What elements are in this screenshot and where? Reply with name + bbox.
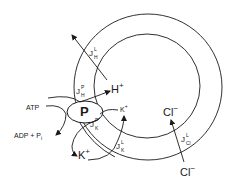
cl-ion-outer: Cl− — [180, 167, 195, 178]
k-ion-inner: K+ — [120, 106, 128, 113]
membrane-transport-diagram: P ATP ADP + Pi H+ K+ K+ Cl− Cl− J L H J … — [0, 0, 235, 185]
flux-jcll-sup: L — [186, 133, 189, 138]
flux-jkl-sub: K — [121, 148, 124, 153]
flux-jkp-base: J — [90, 120, 94, 129]
flux-jhl-sup: L — [94, 47, 97, 52]
k-ion-outer: K+ — [78, 150, 90, 161]
cl-inner-symbol: Cl — [163, 106, 173, 118]
flux-jcll-sub: Cl — [186, 141, 191, 146]
cl-inner-charge: − — [173, 104, 178, 113]
adp-pi-text: ADP + P — [14, 132, 41, 139]
cl-outer-charge: − — [190, 164, 195, 173]
flux-jhp: J P H — [76, 88, 80, 96]
flux-jhp-sub: H — [81, 93, 85, 98]
h-ion-charge: + — [119, 81, 124, 90]
h-ion-symbol: H — [111, 83, 119, 95]
cl-outer-symbol: Cl — [180, 166, 190, 178]
flux-jhp-base: J — [76, 87, 80, 96]
flux-jkp: J P K — [90, 121, 94, 129]
atp-curve — [46, 106, 66, 135]
flux-jhl-sub: H — [94, 55, 98, 60]
flux-jcll-base: J — [181, 135, 185, 144]
flux-jhl-base: J — [89, 49, 93, 58]
adp-pi-label: ADP + Pi — [14, 132, 42, 141]
flux-jcll: J L Cl — [181, 136, 185, 144]
k-inner-symbol: K — [120, 106, 125, 113]
flux-jhl: J L H — [89, 50, 93, 58]
atp-label: ATP — [26, 104, 39, 111]
flux-jhp-sup: P — [81, 85, 84, 90]
pump-label: P — [80, 104, 89, 119]
k-outer-charge: + — [85, 147, 90, 156]
flux-jkp-sub: K — [95, 126, 98, 131]
h-ion-inner: H+ — [111, 84, 124, 95]
flux-jkp-sup: P — [95, 118, 98, 123]
pi-subscript: i — [41, 135, 42, 141]
flux-jkl-sup: L — [121, 140, 124, 145]
inner-membrane — [94, 34, 200, 138]
flux-jkl-base: J — [116, 142, 120, 151]
k-inner-charge: + — [125, 103, 128, 109]
flux-jkl: J L K — [116, 143, 120, 151]
cl-ion-inner: Cl− — [163, 107, 178, 118]
